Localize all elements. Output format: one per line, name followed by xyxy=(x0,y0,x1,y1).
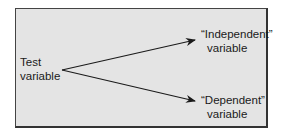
test-variable-line1: Test xyxy=(20,55,60,69)
dependent-line2: variable xyxy=(201,107,265,121)
independent-variable-label: “Independent” variable xyxy=(201,27,273,55)
independent-line1: “Independent” xyxy=(201,27,273,41)
test-variable-label: Test variable xyxy=(20,55,60,83)
dependent-variable-label: “Dependent” variable xyxy=(201,93,265,121)
arrow-to-independent xyxy=(62,40,195,70)
test-variable-line2: variable xyxy=(20,69,60,83)
independent-line2: variable xyxy=(201,41,273,55)
dependent-line1: “Dependent” xyxy=(201,93,265,107)
arrow-to-dependent xyxy=(62,70,195,101)
